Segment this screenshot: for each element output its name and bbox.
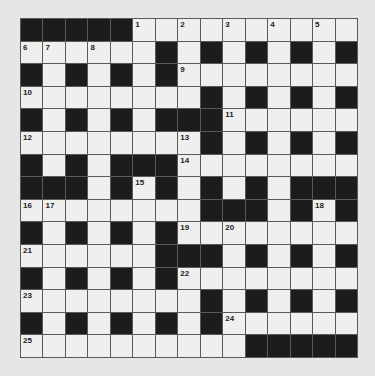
answer-cell[interactable]: 13 [178, 132, 199, 154]
answer-cell[interactable] [178, 290, 199, 312]
answer-cell[interactable] [291, 268, 312, 290]
answer-cell[interactable] [223, 155, 244, 177]
answer-cell[interactable] [246, 155, 267, 177]
answer-cell[interactable] [201, 335, 222, 357]
answer-cell[interactable] [43, 87, 64, 109]
answer-cell[interactable] [88, 245, 109, 267]
answer-cell[interactable]: 3 [223, 19, 244, 41]
answer-cell[interactable] [178, 335, 199, 357]
answer-cell[interactable] [336, 19, 357, 41]
answer-cell[interactable] [88, 200, 109, 222]
answer-cell[interactable] [133, 245, 154, 267]
answer-cell[interactable]: 5 [313, 19, 334, 41]
answer-cell[interactable] [268, 109, 289, 131]
answer-cell[interactable] [268, 87, 289, 109]
answer-cell[interactable] [43, 155, 64, 177]
answer-cell[interactable] [313, 64, 334, 86]
answer-cell[interactable]: 23 [21, 290, 42, 312]
answer-cell[interactable] [336, 313, 357, 335]
answer-cell[interactable] [268, 222, 289, 244]
answer-cell[interactable] [246, 313, 267, 335]
answer-cell[interactable] [88, 177, 109, 199]
answer-cell[interactable] [313, 313, 334, 335]
answer-cell[interactable] [291, 64, 312, 86]
answer-cell[interactable]: 11 [223, 109, 244, 131]
answer-cell[interactable] [88, 87, 109, 109]
answer-cell[interactable] [133, 335, 154, 357]
answer-cell[interactable] [223, 268, 244, 290]
answer-cell[interactable] [111, 42, 132, 64]
answer-cell[interactable] [268, 132, 289, 154]
answer-cell[interactable] [268, 155, 289, 177]
answer-cell[interactable] [313, 42, 334, 64]
answer-cell[interactable]: 7 [43, 42, 64, 64]
answer-cell[interactable]: 10 [21, 87, 42, 109]
answer-cell[interactable] [178, 200, 199, 222]
answer-cell[interactable] [133, 109, 154, 131]
answer-cell[interactable] [133, 313, 154, 335]
answer-cell[interactable]: 1 [133, 19, 154, 41]
answer-cell[interactable] [66, 245, 87, 267]
answer-cell[interactable] [43, 268, 64, 290]
answer-cell[interactable] [246, 109, 267, 131]
answer-cell[interactable] [336, 222, 357, 244]
answer-cell[interactable] [268, 200, 289, 222]
answer-cell[interactable]: 16 [21, 200, 42, 222]
answer-cell[interactable] [201, 268, 222, 290]
answer-cell[interactable] [313, 155, 334, 177]
answer-cell[interactable] [246, 222, 267, 244]
answer-cell[interactable] [133, 64, 154, 86]
answer-cell[interactable] [66, 200, 87, 222]
answer-cell[interactable]: 12 [21, 132, 42, 154]
answer-cell[interactable] [88, 132, 109, 154]
answer-cell[interactable] [201, 222, 222, 244]
answer-cell[interactable]: 18 [313, 200, 334, 222]
answer-cell[interactable] [178, 87, 199, 109]
answer-cell[interactable] [268, 313, 289, 335]
answer-cell[interactable] [201, 155, 222, 177]
answer-cell[interactable] [111, 200, 132, 222]
answer-cell[interactable] [291, 109, 312, 131]
answer-cell[interactable] [111, 245, 132, 267]
answer-cell[interactable] [291, 313, 312, 335]
answer-cell[interactable]: 6 [21, 42, 42, 64]
answer-cell[interactable] [223, 335, 244, 357]
answer-cell[interactable] [223, 64, 244, 86]
answer-cell[interactable] [223, 42, 244, 64]
answer-cell[interactable] [336, 268, 357, 290]
answer-cell[interactable] [156, 132, 177, 154]
answer-cell[interactable]: 19 [178, 222, 199, 244]
answer-cell[interactable] [223, 87, 244, 109]
answer-cell[interactable] [313, 87, 334, 109]
answer-cell[interactable]: 9 [178, 64, 199, 86]
answer-cell[interactable] [246, 268, 267, 290]
answer-cell[interactable] [111, 87, 132, 109]
answer-cell[interactable] [291, 19, 312, 41]
answer-cell[interactable]: 20 [223, 222, 244, 244]
answer-cell[interactable] [66, 335, 87, 357]
answer-cell[interactable]: 21 [21, 245, 42, 267]
answer-cell[interactable] [133, 222, 154, 244]
answer-cell[interactable] [156, 200, 177, 222]
answer-cell[interactable] [246, 19, 267, 41]
answer-cell[interactable] [336, 109, 357, 131]
answer-cell[interactable]: 2 [178, 19, 199, 41]
answer-cell[interactable] [313, 132, 334, 154]
answer-cell[interactable]: 15 [133, 177, 154, 199]
answer-cell[interactable] [178, 177, 199, 199]
answer-cell[interactable] [66, 87, 87, 109]
answer-cell[interactable] [223, 132, 244, 154]
answer-cell[interactable] [88, 313, 109, 335]
answer-cell[interactable] [88, 155, 109, 177]
answer-cell[interactable] [268, 245, 289, 267]
answer-cell[interactable]: 24 [223, 313, 244, 335]
answer-cell[interactable] [336, 64, 357, 86]
answer-cell[interactable] [178, 42, 199, 64]
answer-cell[interactable] [291, 155, 312, 177]
answer-cell[interactable] [111, 132, 132, 154]
answer-cell[interactable]: 25 [21, 335, 42, 357]
answer-cell[interactable] [43, 245, 64, 267]
answer-cell[interactable] [291, 222, 312, 244]
answer-cell[interactable] [88, 335, 109, 357]
answer-cell[interactable] [133, 42, 154, 64]
